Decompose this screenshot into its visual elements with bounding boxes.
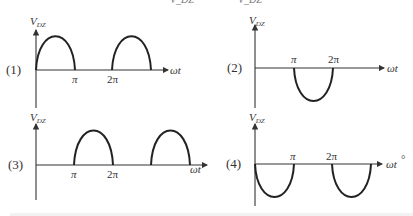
tick-pi: π	[291, 53, 297, 65]
panel-number: (3)	[8, 157, 23, 172]
y-axis-label: VDZ	[30, 111, 46, 125]
waveform-diagram: VDZ ωt (1) π 2π VDZ ωt (2) π 2π VDZ (3) …	[0, 0, 413, 216]
panel-number: (2)	[227, 60, 242, 75]
tick-pi: π	[71, 168, 77, 180]
y-axis-label: VDZ	[249, 111, 265, 125]
half-wave-1	[74, 131, 113, 166]
panel-4: VDZ ωt ° (4) π 2π	[226, 111, 405, 206]
tick-2pi: 2π	[107, 73, 119, 85]
y-axis-label: VDZ	[30, 15, 46, 29]
tick-pi: π	[290, 150, 296, 162]
half-wave-2	[112, 36, 151, 70]
x-axis-label: ωt	[387, 62, 399, 74]
bottom-divider	[10, 213, 413, 216]
half-wave-2	[151, 131, 190, 166]
negative-half-wave-2	[332, 164, 371, 197]
negative-half-wave-1	[255, 164, 294, 197]
panel-number: (4)	[226, 156, 241, 171]
panel-number: (1)	[6, 62, 21, 77]
panel-1: VDZ ωt (1) π 2π	[6, 15, 182, 108]
tick-2pi: 2π	[328, 53, 340, 65]
negative-half-wave	[294, 68, 333, 101]
half-wave-1	[36, 36, 75, 70]
tick-2pi: 2π	[326, 150, 338, 162]
panel-2: VDZ ωt (2) π 2π	[227, 14, 399, 108]
x-axis-label: ωt	[170, 64, 182, 76]
tick-pi: π	[72, 73, 78, 85]
y-axis-label: VDZ	[249, 14, 265, 28]
panel-3-x-axis-label: ωt	[190, 163, 202, 175]
tick-2pi: 2π	[107, 168, 119, 180]
trailing-mark: °	[401, 153, 405, 165]
panel-3: VDZ (3) π 2π	[8, 111, 207, 200]
x-axis-label: ωt	[386, 158, 398, 170]
